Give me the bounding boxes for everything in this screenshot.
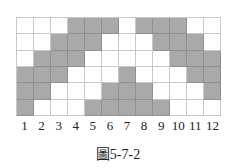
grid-cell-filled bbox=[119, 100, 136, 116]
column-label: 2 bbox=[33, 118, 50, 134]
grid-cell-empty bbox=[17, 51, 34, 67]
grid-cell-filled bbox=[51, 67, 68, 83]
grid-cell-empty bbox=[102, 51, 119, 67]
grid-cell-filled bbox=[51, 34, 68, 50]
grid-cell-filled bbox=[153, 100, 170, 116]
grid-cell-filled bbox=[17, 67, 34, 83]
grid-cell-empty bbox=[68, 83, 85, 99]
grid-cell-empty bbox=[204, 100, 221, 116]
grid-cell-filled bbox=[136, 18, 153, 34]
grid-cell-empty bbox=[119, 34, 136, 50]
grid-cell-filled bbox=[153, 34, 170, 50]
grid-cell-filled bbox=[17, 100, 34, 116]
grid-cell-empty bbox=[51, 18, 68, 34]
grid-cell-filled bbox=[68, 34, 85, 50]
grid-cell-filled bbox=[187, 34, 204, 50]
grid-cell-empty bbox=[102, 34, 119, 50]
grid-cell-filled bbox=[204, 67, 221, 83]
column-label: 7 bbox=[119, 118, 136, 134]
column-label: 5 bbox=[84, 118, 101, 134]
column-label: 1 bbox=[16, 118, 33, 134]
grid-cell-filled bbox=[102, 83, 119, 99]
grid-cell-empty bbox=[170, 100, 187, 116]
grid-cell-empty bbox=[136, 51, 153, 67]
column-labels: 123456789101112 bbox=[16, 118, 221, 134]
column-label: 11 bbox=[187, 118, 204, 134]
grid-cell-filled bbox=[68, 18, 85, 34]
grid-cell-empty bbox=[51, 100, 68, 116]
grid-cell-empty bbox=[187, 18, 204, 34]
grid-cell-empty bbox=[136, 34, 153, 50]
grid-cell-empty bbox=[85, 51, 102, 67]
grid-cell-filled bbox=[34, 67, 51, 83]
grid-cell-filled bbox=[17, 83, 34, 99]
grid-cell-filled bbox=[34, 83, 51, 99]
grid-cell-empty bbox=[170, 83, 187, 99]
grid-cell-filled bbox=[136, 83, 153, 99]
grid-cell-filled bbox=[102, 18, 119, 34]
column-label: 10 bbox=[170, 118, 187, 134]
grid-cell-filled bbox=[170, 18, 187, 34]
grid-cell-filled bbox=[68, 51, 85, 67]
grid-cell-filled bbox=[204, 83, 221, 99]
column-label: 4 bbox=[67, 118, 84, 134]
column-label: 8 bbox=[136, 118, 153, 134]
figure-caption: 圖5-7-2 bbox=[0, 143, 236, 163]
column-label: 6 bbox=[101, 118, 118, 134]
grid-cell-empty bbox=[204, 18, 221, 34]
grid-cell-empty bbox=[51, 83, 68, 99]
grid-cell-filled bbox=[187, 67, 204, 83]
pattern-grid bbox=[16, 17, 221, 116]
grid-cell-filled bbox=[136, 100, 153, 116]
grid-cell-filled bbox=[102, 100, 119, 116]
grid-cell-filled bbox=[51, 51, 68, 67]
grid-cell-empty bbox=[204, 34, 221, 50]
grid-cell-empty bbox=[119, 51, 136, 67]
grid-cell-filled bbox=[187, 51, 204, 67]
grid-cell-filled bbox=[85, 18, 102, 34]
grid-cell-empty bbox=[153, 83, 170, 99]
column-label: 9 bbox=[153, 118, 170, 134]
grid-cell-filled bbox=[85, 100, 102, 116]
grid-cell-empty bbox=[68, 100, 85, 116]
grid-cell-empty bbox=[170, 67, 187, 83]
grid-cell-empty bbox=[85, 83, 102, 99]
grid-cell-empty bbox=[136, 67, 153, 83]
grid-cell-empty bbox=[34, 18, 51, 34]
grid-cell-empty bbox=[85, 67, 102, 83]
grid-cell-filled bbox=[119, 67, 136, 83]
grid-cell-empty bbox=[102, 67, 119, 83]
column-label: 12 bbox=[204, 118, 221, 134]
grid-cell-empty bbox=[187, 100, 204, 116]
grid-cell-empty bbox=[34, 100, 51, 116]
grid-cell-filled bbox=[34, 51, 51, 67]
grid-cell-empty bbox=[119, 18, 136, 34]
grid-cell-filled bbox=[170, 51, 187, 67]
grid-cell-empty bbox=[17, 34, 34, 50]
grid-cell-filled bbox=[204, 51, 221, 67]
grid-cell-filled bbox=[170, 34, 187, 50]
grid-cell-filled bbox=[153, 18, 170, 34]
grid-cell-filled bbox=[85, 34, 102, 50]
grid-cell-empty bbox=[68, 67, 85, 83]
grid-cell-empty bbox=[153, 51, 170, 67]
grid-cell-filled bbox=[119, 83, 136, 99]
grid-cell-empty bbox=[187, 83, 204, 99]
grid-cell-empty bbox=[17, 18, 34, 34]
grid-cell-empty bbox=[153, 67, 170, 83]
grid-cell-empty bbox=[34, 34, 51, 50]
column-label: 3 bbox=[50, 118, 67, 134]
